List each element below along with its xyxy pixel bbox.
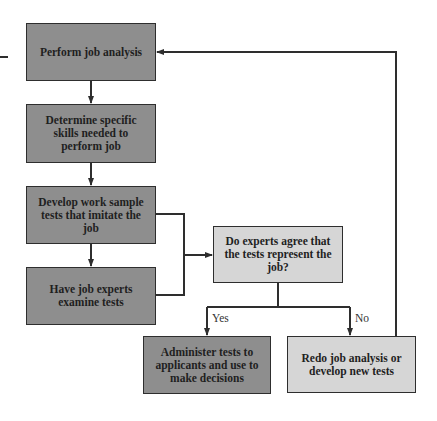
- node-decision: Do experts agree that the tests represen…: [213, 226, 343, 283]
- node-administer-tests: Administer tests to applicants and use t…: [143, 336, 271, 394]
- node-label: Develop work sample tests that imitate t…: [37, 196, 145, 235]
- node-label: Determine specific skills needed to perf…: [45, 114, 137, 153]
- node-label: Have job experts examine tests: [49, 283, 133, 309]
- node-redo: Redo job analysis or develop new tests: [287, 336, 416, 393]
- node-label: Do experts agree that the tests represen…: [224, 235, 332, 274]
- node-perform-job-analysis: Perform job analysis: [26, 23, 156, 81]
- node-label: Perform job analysis: [40, 46, 142, 59]
- node-develop-tests: Develop work sample tests that imitate t…: [26, 186, 156, 244]
- no-label: No: [355, 312, 369, 324]
- bracket-line: [156, 214, 184, 295]
- node-experts-examine: Have job experts examine tests: [26, 267, 156, 325]
- node-label: Administer tests to applicants and use t…: [148, 346, 266, 385]
- node-label: Redo job analysis or develop new tests: [296, 352, 407, 378]
- yes-label: Yes: [212, 312, 229, 324]
- arrow-feedback: [157, 52, 396, 336]
- node-determine-skills: Determine specific skills needed to perf…: [26, 104, 156, 163]
